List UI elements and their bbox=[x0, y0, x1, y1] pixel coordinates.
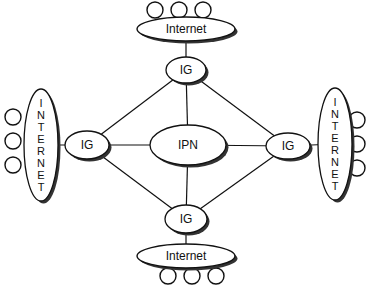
ig-bottom-node: IG bbox=[165, 205, 210, 236]
vertical-label-letter: E bbox=[37, 169, 44, 181]
vertical-label-letter: N bbox=[331, 108, 339, 120]
node-label: IG bbox=[81, 138, 94, 152]
ipn-node: IPN bbox=[150, 125, 229, 168]
node-label: IG bbox=[180, 63, 193, 77]
vertical-label-letter: R bbox=[37, 145, 45, 157]
host-circle-top-3 bbox=[195, 2, 211, 18]
vertical-label-letter: R bbox=[331, 144, 339, 156]
node-label: Internet bbox=[166, 22, 207, 36]
vertical-label-letter: I bbox=[39, 97, 42, 109]
host-circle-bottom-3 bbox=[208, 268, 224, 284]
node-label: Internet bbox=[166, 249, 207, 263]
vertical-label-letter: E bbox=[331, 132, 338, 144]
network-diagram: InternetInternetINTERNETINTERNETIGIGIGIG… bbox=[0, 0, 370, 287]
host-circle-left-1 bbox=[5, 109, 21, 125]
ig-left-node: IG bbox=[65, 131, 112, 162]
nodes: InternetInternetINTERNETINTERNETIGIGIGIG… bbox=[24, 17, 355, 271]
vertical-label-letter: I bbox=[333, 96, 336, 108]
host-circle-top-1 bbox=[147, 2, 163, 18]
node-label: IG bbox=[180, 212, 193, 226]
vertical-label-letter: T bbox=[38, 181, 45, 193]
host-circle-left-2 bbox=[5, 133, 21, 149]
internet-bottom-node: Internet bbox=[137, 244, 238, 271]
diagram-svg: InternetInternetINTERNETINTERNETIGIGIGIG… bbox=[0, 0, 370, 287]
vertical-label-letter: T bbox=[332, 180, 339, 192]
node-label: IPN bbox=[178, 138, 198, 152]
vertical-label-letter: T bbox=[38, 121, 45, 133]
vertical-label-letter: T bbox=[332, 120, 339, 132]
vertical-label-letter: E bbox=[331, 168, 338, 180]
vertical-label-letter: N bbox=[331, 156, 339, 168]
ig-top-node: IG bbox=[166, 57, 209, 86]
vertical-label-letter: N bbox=[37, 157, 45, 169]
host-circle-top-2 bbox=[171, 2, 187, 18]
host-circle-left-3 bbox=[5, 157, 21, 173]
vertical-label-letter: E bbox=[37, 133, 44, 145]
internet-left-node: INTERNET bbox=[24, 89, 61, 204]
node-label: IG bbox=[282, 139, 295, 153]
internet-right-node: INTERNET bbox=[318, 88, 355, 203]
vertical-label-letter: N bbox=[37, 109, 45, 121]
host-circle-bottom-1 bbox=[160, 268, 176, 284]
internet-top-node: Internet bbox=[137, 17, 238, 44]
